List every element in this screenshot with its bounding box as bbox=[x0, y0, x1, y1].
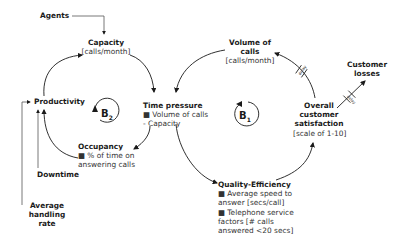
node-productivity: Productivity bbox=[34, 97, 85, 106]
node-customer-losses: Customer losses bbox=[345, 60, 389, 78]
edge-timepressure-quality bbox=[176, 124, 217, 183]
node-volume-of-calls: Volume of calls [calls/month] bbox=[222, 38, 278, 66]
edge-ahr-productivity bbox=[22, 102, 30, 205]
edge-volume-timepressure bbox=[176, 50, 225, 92]
edge-timepressure-occupancy bbox=[134, 126, 150, 149]
node-quality-efficiency: Quality-Efficiency ■ Average speed to an… bbox=[218, 180, 294, 235]
causal-loop-diagram: delay delay Agents Capacity [calls/month… bbox=[0, 0, 403, 252]
edge-satisfaction-volume bbox=[275, 53, 315, 98]
svg-text:delay: delay bbox=[297, 64, 308, 76]
node-agents: Agents bbox=[40, 11, 69, 20]
node-overall-customer-satisfaction: Overall customer satisfaction [scale of … bbox=[293, 101, 345, 138]
edge-capacity-timepressure bbox=[130, 55, 154, 92]
node-occupancy: Occupancy ■ % of time on answering calls bbox=[78, 142, 135, 170]
loop-label-b2: B2 bbox=[101, 108, 113, 121]
edge-agents-capacity bbox=[72, 16, 104, 34]
edge-occupancy-productivity bbox=[44, 110, 78, 158]
node-average-handling-rate: Average handling rate bbox=[26, 201, 68, 229]
delay-mark-volume: delay bbox=[296, 63, 309, 77]
loop-label-b1: B1 bbox=[239, 110, 251, 123]
delay-mark-losses: delay bbox=[343, 91, 358, 106]
node-downtime: Downtime bbox=[37, 170, 79, 179]
edge-productivity-capacity bbox=[44, 55, 82, 96]
edge-quality-satisfaction bbox=[276, 143, 313, 180]
node-time-pressure: Time pressure ■ Volume of calls - Capaci… bbox=[143, 101, 208, 129]
node-capacity: Capacity [calls/month] bbox=[80, 38, 132, 56]
